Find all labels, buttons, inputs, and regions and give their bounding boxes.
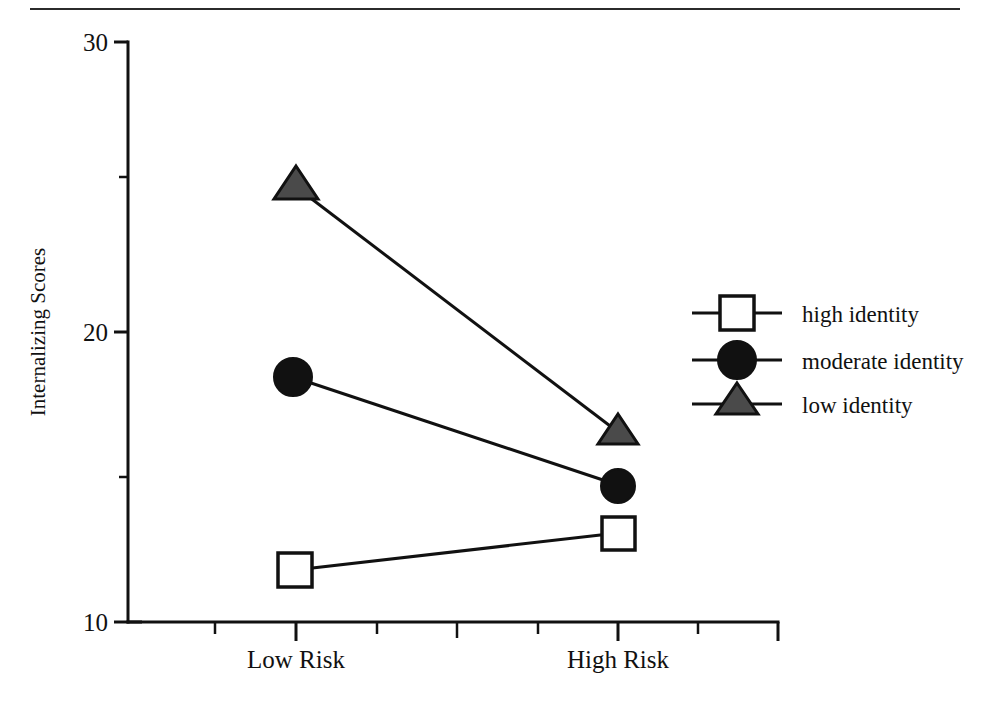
legend-label-moderate-identity: moderate identity: [802, 349, 964, 374]
line-chart: 30 20 10 Low Risk High Risk Internalizin…: [0, 0, 995, 704]
legend-marker-moderate-identity: [718, 341, 756, 379]
data-point-high-identity-low-risk: [278, 553, 312, 587]
y-tick-label-10: 10: [83, 609, 108, 636]
figure-page: 30 20 10 Low Risk High Risk Internalizin…: [0, 0, 995, 704]
series-line-high-identity: [295, 533, 618, 570]
legend-marker-low-identity: [716, 383, 758, 414]
y-axis-title: Internalizing Scores: [26, 248, 50, 417]
data-point-moderate-identity-low-risk: [274, 358, 312, 396]
legend-label-high-identity: high identity: [802, 302, 919, 327]
legend-marker-high-identity: [720, 296, 754, 330]
legend-label-low-identity: low identity: [802, 393, 913, 418]
data-point-moderate-identity-high-risk: [601, 469, 635, 503]
x-tick-label-low-risk: Low Risk: [247, 646, 345, 673]
data-point-low-identity-low-risk: [274, 166, 318, 199]
data-point-high-identity-high-risk: [602, 517, 635, 550]
data-point-low-identity-high-risk: [598, 414, 638, 444]
y-tick-label-20: 20: [83, 319, 108, 346]
chart-legend: high identity moderate identity low iden…: [692, 296, 964, 418]
x-tick-label-high-risk: High Risk: [567, 646, 670, 673]
y-tick-label-30: 30: [83, 29, 108, 56]
